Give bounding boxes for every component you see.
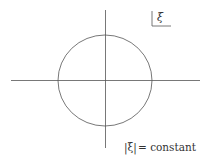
variable-label-box: ξ	[152, 11, 171, 26]
equals-constant-text: = constant	[138, 141, 197, 153]
magnitude-expression: |ξ|	[124, 141, 137, 155]
constant-magnitude-label: |ξ| = constant	[124, 141, 197, 155]
variable-label: ξ	[157, 11, 164, 24]
diagram-canvas: ξ |ξ| = constant	[0, 0, 211, 160]
